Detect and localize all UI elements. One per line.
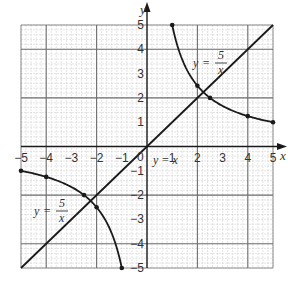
data-point <box>271 120 276 125</box>
axes <box>21 2 287 268</box>
y-tick-label: 2 <box>137 91 144 105</box>
origin-label: 0 <box>137 150 144 164</box>
y-axis-label: y <box>138 2 146 17</box>
label-numerator: 5 <box>218 48 224 62</box>
data-point <box>120 266 125 271</box>
data-point <box>19 169 24 174</box>
x-tick-label: −4 <box>39 151 53 165</box>
x-tick-label: −2 <box>90 151 104 165</box>
y-tick-label: −5 <box>130 261 144 275</box>
y-tick-label: 5 <box>137 18 144 32</box>
label-denominator: x <box>217 63 224 77</box>
y-tick-label: 3 <box>137 67 144 81</box>
data-point <box>208 96 213 101</box>
data-point <box>82 193 87 198</box>
x-tick-label: 3 <box>219 151 226 165</box>
label-equals: = <box>43 204 51 218</box>
x-axis-label: x <box>279 148 286 163</box>
line-label: y = x <box>152 153 178 167</box>
data-point <box>94 205 99 210</box>
data-point <box>195 83 200 88</box>
x-tick-label: −3 <box>65 151 79 165</box>
y-tick-label: −4 <box>130 237 144 251</box>
label-numerator: 5 <box>59 196 65 210</box>
x-tick-label: −5 <box>14 151 28 165</box>
label-y: y <box>192 56 199 70</box>
x-tick-label: 2 <box>194 151 201 165</box>
y-tick-label: 4 <box>137 42 144 56</box>
data-point <box>170 23 175 28</box>
x-tick-label: −1 <box>115 151 129 165</box>
curve-label-lower: y = 5 x <box>33 196 68 225</box>
label-denominator: x <box>58 211 65 225</box>
label-y: y <box>33 204 40 218</box>
y-tick-label: −2 <box>130 188 144 202</box>
y-tick-label: 1 <box>137 115 144 129</box>
y-tick-label: −1 <box>130 164 144 178</box>
x-tick-label: 4 <box>244 151 251 165</box>
data-point <box>246 114 251 119</box>
y-tick-label: −3 <box>130 212 144 226</box>
x-tick-label: 5 <box>270 151 277 165</box>
data-point <box>44 175 49 180</box>
graph-canvas: −5−4−3−2−112345−5−4−3−2−112345 y x 0 y =… <box>0 0 288 282</box>
label-equals: = <box>202 56 210 70</box>
